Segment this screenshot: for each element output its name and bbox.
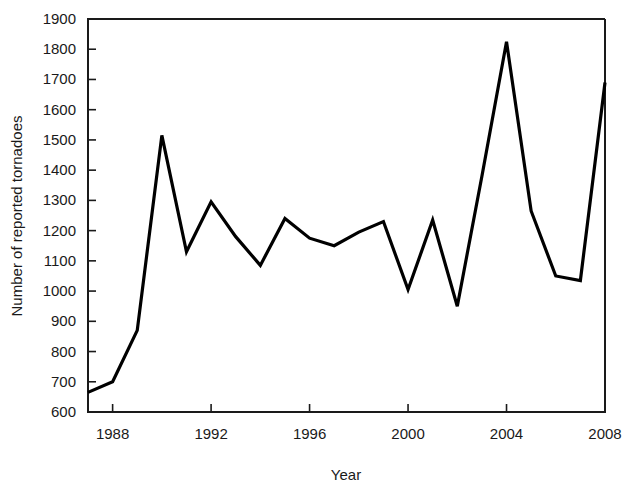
x-axis-tick-label: 2004: [490, 425, 523, 442]
x-axis-tick-labels: 198819921996200020042008: [96, 425, 622, 442]
x-axis-tick-label: 2000: [391, 425, 424, 442]
y-axis-tick-marks: [88, 19, 96, 412]
x-axis-tick-label: 1992: [194, 425, 227, 442]
x-axis-tick-label: 1988: [96, 425, 129, 442]
y-axis-tick-label: 1600: [43, 101, 76, 118]
y-axis-title: Number of reported tornadoes: [8, 116, 25, 317]
y-axis-tick-label: 1500: [43, 131, 76, 148]
x-axis-tick-label: 2008: [588, 425, 621, 442]
y-axis-tick-label: 900: [51, 312, 76, 329]
x-axis-tick-marks: [113, 404, 605, 412]
plot-area-frame: [88, 19, 605, 412]
y-axis-tick-label: 1800: [43, 40, 76, 57]
y-axis-tick-label: 1100: [44, 252, 76, 269]
y-axis-tick-label: 1300: [43, 191, 76, 208]
y-axis-tick-label: 600: [51, 403, 76, 420]
y-axis-tick-label: 1000: [43, 282, 76, 299]
line-chart: 6007008009001000110012001300140015001600…: [0, 0, 628, 498]
data-series-line: [88, 42, 605, 393]
y-axis-tick-label: 1200: [43, 222, 76, 239]
chart-figure: 6007008009001000110012001300140015001600…: [0, 0, 628, 498]
y-axis-tick-label: 1900: [43, 10, 76, 27]
y-axis-tick-label: 700: [51, 373, 76, 390]
y-axis-tick-label: 1400: [43, 161, 76, 178]
x-axis-title: Year: [331, 466, 361, 483]
x-axis-tick-label: 1996: [293, 425, 326, 442]
y-axis-tick-labels: 6007008009001000110012001300140015001600…: [43, 10, 76, 420]
y-axis-tick-label: 800: [51, 343, 76, 360]
y-axis-tick-label: 1700: [43, 70, 76, 87]
